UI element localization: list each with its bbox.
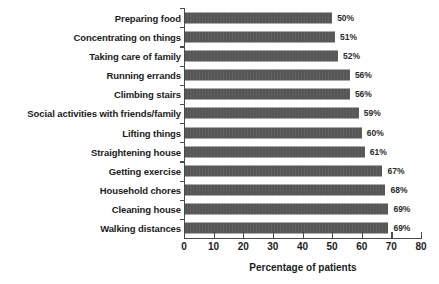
bar: [184, 108, 359, 119]
chart-row: Getting exercise67%: [0, 161, 439, 180]
bar-value-label: 69%: [393, 223, 410, 233]
bar: [184, 31, 335, 42]
x-axis-line: [184, 238, 422, 239]
category-label: Cleaning house: [112, 204, 181, 215]
category-label: Preparing food: [115, 12, 181, 23]
bar: [184, 127, 362, 138]
bar-value-label: 67%: [387, 166, 404, 176]
bar-value-label: 51%: [340, 32, 357, 42]
bar: [184, 146, 365, 157]
category-label: Concentrating on things: [74, 31, 181, 42]
plot-area: Preparing food50%Concentrating on things…: [0, 0, 439, 284]
x-axis-tick: [362, 232, 363, 238]
x-axis-tick-label: 80: [415, 241, 426, 252]
bar-value-label: 56%: [355, 70, 372, 80]
bar-value-label: 68%: [390, 185, 407, 195]
chart-row: Taking care of family52%: [0, 46, 439, 65]
chart-row: Walking distances69%: [0, 219, 439, 238]
category-label: Household chores: [100, 185, 181, 196]
x-axis-tick-label: 40: [297, 241, 308, 252]
bar: [184, 89, 350, 100]
x-axis-tick-label: 10: [208, 241, 219, 252]
x-axis-tick: [214, 232, 215, 238]
chart-row: Straightening house61%: [0, 142, 439, 161]
category-label: Lifting things: [122, 127, 181, 138]
x-axis-tick: [391, 232, 392, 238]
bar: [184, 70, 350, 81]
chart-row: Social activities with friends/family59%: [0, 104, 439, 123]
category-label: Running errands: [106, 70, 181, 81]
bar-value-label: 59%: [364, 108, 381, 118]
x-axis-tick-label: 0: [181, 241, 187, 252]
x-axis-tick-label: 60: [356, 241, 367, 252]
bar: [184, 12, 332, 23]
x-axis-tick-label: 70: [386, 241, 397, 252]
bar-value-label: 52%: [343, 51, 360, 61]
chart-row: Running errands56%: [0, 66, 439, 85]
chart-row: Concentrating on things51%: [0, 27, 439, 46]
bar-value-label: 60%: [367, 128, 384, 138]
x-axis-tick-label: 30: [267, 241, 278, 252]
bar-value-label: 61%: [370, 147, 387, 157]
x-axis-tick: [303, 232, 304, 238]
chart-row: Household chores68%: [0, 181, 439, 200]
x-axis-tick-label: 20: [238, 241, 249, 252]
bar: [184, 185, 385, 196]
bar: [184, 50, 338, 61]
bar: [184, 204, 388, 215]
category-label: Walking distances: [100, 223, 181, 234]
y-axis-line: [184, 8, 185, 239]
bar-value-label: 56%: [355, 89, 372, 99]
x-axis-title: Percentage of patients: [184, 262, 422, 273]
x-axis-tick: [332, 232, 333, 238]
chart-row: Climbing stairs56%: [0, 85, 439, 104]
bar-value-label: 69%: [393, 204, 410, 214]
x-axis-tick-label: 50: [327, 241, 338, 252]
x-axis-tick: [243, 232, 244, 238]
category-label: Climbing stairs: [114, 89, 181, 100]
chart-row: Cleaning house69%: [0, 200, 439, 219]
chart-row: Lifting things60%: [0, 123, 439, 142]
bar-chart: Preparing food50%Concentrating on things…: [0, 0, 439, 284]
x-axis-tick: [273, 232, 274, 238]
x-axis-tick: [421, 232, 422, 238]
x-axis-tick: [184, 232, 185, 238]
category-label: Straightening house: [91, 146, 181, 157]
category-label: Getting exercise: [109, 165, 181, 176]
category-label: Social activities with friends/family: [27, 108, 181, 119]
bar-value-label: 50%: [337, 13, 354, 23]
chart-row: Preparing food50%: [0, 8, 439, 27]
bar: [184, 165, 382, 176]
category-label: Taking care of family: [89, 50, 181, 61]
